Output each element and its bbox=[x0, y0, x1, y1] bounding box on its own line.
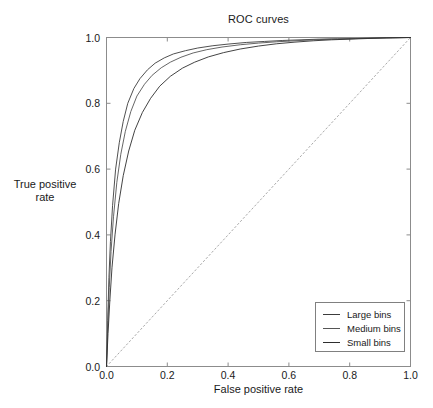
x-tick-label: 0.2 bbox=[147, 369, 187, 381]
legend-label: Large bins bbox=[347, 309, 391, 320]
y-tick-label: 0.4 bbox=[68, 229, 100, 241]
x-axis-label: False positive rate bbox=[106, 383, 411, 395]
legend-label: Small bins bbox=[347, 337, 391, 348]
y-axis-label: True positive rate bbox=[6, 178, 84, 204]
legend-item-3: Small bins bbox=[316, 335, 406, 350]
legend-item-2: Medium bins bbox=[316, 321, 406, 336]
x-tick-label: 0.8 bbox=[330, 369, 370, 381]
legend-item-1: Large bins bbox=[316, 307, 406, 322]
x-tick-label: 1.0 bbox=[391, 369, 431, 381]
legend-line-icon bbox=[323, 328, 340, 329]
y-tick-label: 0.2 bbox=[68, 295, 100, 307]
x-tick-label: 0.6 bbox=[269, 369, 309, 381]
y-tick-label: 0.0 bbox=[68, 361, 100, 373]
chart-legend: Large binsMedium binsSmall bins bbox=[315, 302, 405, 352]
y-tick-label: 1.0 bbox=[68, 32, 100, 44]
y-tick-label: 0.8 bbox=[68, 97, 100, 109]
legend-label: Medium bins bbox=[347, 323, 401, 334]
legend-line-icon bbox=[323, 342, 340, 343]
x-tick-label: 0.4 bbox=[208, 369, 248, 381]
roc-chart-figure: ROC curves True positive rate False posi… bbox=[0, 0, 433, 408]
legend-line-icon bbox=[323, 314, 340, 315]
y-tick-label: 0.6 bbox=[68, 163, 100, 175]
